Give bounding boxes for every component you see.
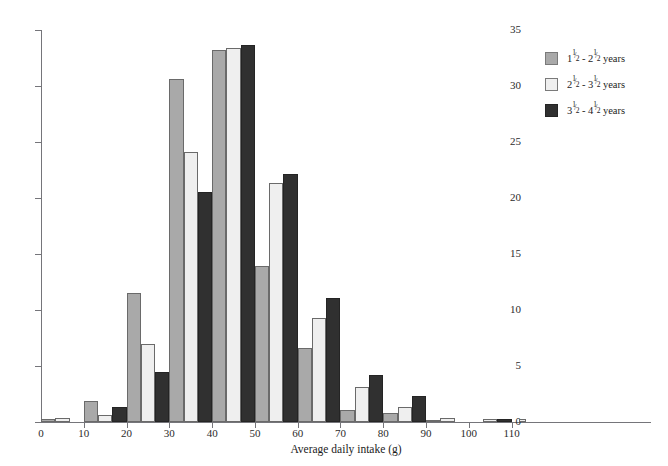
bar — [312, 318, 326, 422]
x-tick-label: 70 — [320, 428, 360, 439]
bar — [355, 387, 369, 422]
legend-swatch-icon — [545, 52, 558, 65]
x-tick-label: 80 — [363, 428, 403, 439]
bar — [269, 183, 283, 422]
bar — [127, 293, 141, 422]
x-tick-label: 10 — [64, 428, 104, 439]
legend-item-label: 11/2 - 21/2 years — [567, 52, 625, 65]
bar — [412, 396, 426, 422]
bar — [369, 375, 383, 422]
legend-item-label: 21/2 - 31/2 years — [567, 78, 625, 91]
x-tick-label: 60 — [278, 428, 318, 439]
bar — [483, 419, 497, 422]
bar — [55, 418, 69, 422]
legend-item[interactable]: 11/2 - 21/2 years — [545, 45, 665, 71]
bars-layer — [41, 30, 533, 422]
bar — [383, 413, 397, 422]
x-axis-title: Average daily intake (g) — [41, 444, 651, 456]
bar — [398, 407, 412, 422]
legend-swatch-icon — [545, 104, 558, 117]
x-tick-label: 110 — [492, 428, 532, 439]
bar — [440, 418, 454, 422]
figure-container: Percentage Average daily intake (g) 0510… — [0, 0, 668, 466]
bar — [155, 372, 169, 422]
caption-sliver — [0, 0, 420, 5]
y-tick-mark — [35, 422, 41, 423]
bar — [84, 401, 98, 422]
x-tick-label: 0 — [21, 428, 61, 439]
bar — [98, 415, 112, 422]
bar — [426, 420, 440, 422]
x-axis-line — [41, 422, 651, 423]
legend-item[interactable]: 31/2 - 41/2 years — [545, 97, 665, 123]
x-tick-label: 40 — [192, 428, 232, 439]
bar — [41, 419, 55, 422]
x-tick-label: 100 — [449, 428, 489, 439]
x-tick-label: 30 — [149, 428, 189, 439]
bar — [326, 298, 340, 422]
legend-item[interactable]: 21/2 - 31/2 years — [545, 71, 665, 97]
bar — [169, 79, 183, 422]
x-tick-label: 20 — [107, 428, 147, 439]
bar — [283, 174, 297, 422]
plot-area: 05101520253035 0102030405060708090100110 — [41, 30, 533, 422]
legend-swatch-icon — [545, 78, 558, 91]
bar — [198, 192, 212, 422]
bar — [212, 50, 226, 422]
bar — [141, 344, 155, 422]
bar — [241, 45, 255, 422]
bar — [184, 152, 198, 422]
bar — [298, 348, 312, 422]
bar — [497, 419, 511, 422]
bar — [226, 48, 240, 422]
bar — [255, 266, 269, 422]
x-tick-label: 50 — [235, 428, 275, 439]
legend: 11/2 - 21/2 years21/2 - 31/2 years31/2 -… — [545, 45, 665, 123]
bar — [112, 407, 126, 422]
bar — [340, 410, 354, 422]
bar — [519, 419, 526, 422]
legend-item-label: 31/2 - 41/2 years — [567, 104, 625, 117]
x-tick-label: 90 — [406, 428, 446, 439]
